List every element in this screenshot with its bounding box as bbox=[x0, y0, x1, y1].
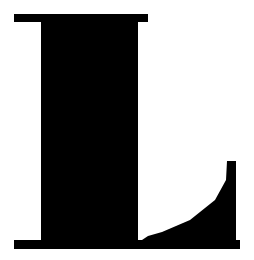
glyph-canvas: L bbox=[0, 0, 254, 260]
letter-l-artwork: L bbox=[0, 0, 254, 260]
